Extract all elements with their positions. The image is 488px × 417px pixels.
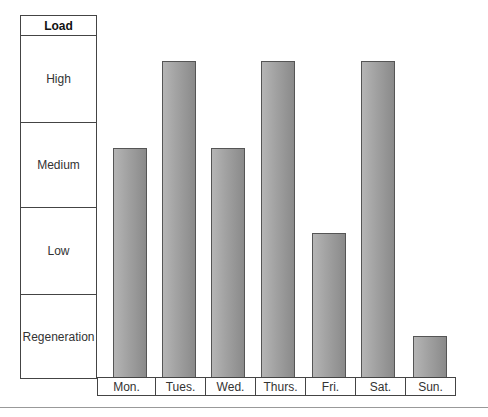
bar-chart-area xyxy=(97,0,488,395)
bar-thurs xyxy=(261,61,295,378)
bar-tues xyxy=(162,61,196,378)
bar-sat xyxy=(361,61,395,378)
level-medium: Medium xyxy=(21,122,96,207)
day-label-wed: Wed. xyxy=(205,378,255,395)
bar-mon xyxy=(113,148,147,378)
day-label-tue: Tues. xyxy=(155,378,205,395)
day-axis: Mon. Tues. Wed. Thurs. Fri. Sat. Sun. xyxy=(97,377,456,396)
level-regeneration: Regeneration xyxy=(21,294,96,378)
day-label-thu: Thurs. xyxy=(255,378,305,395)
day-label-fri: Fri. xyxy=(305,378,355,395)
caption-divider xyxy=(0,407,488,408)
day-label-sat: Sat. xyxy=(355,378,405,395)
bar-sun xyxy=(413,336,447,378)
day-label-sun: Sun. xyxy=(405,378,455,395)
day-label-mon: Mon. xyxy=(98,378,155,395)
load-header: Load xyxy=(21,16,96,35)
bar-wed xyxy=(211,148,245,378)
level-low: Low xyxy=(21,207,96,294)
bar-fri xyxy=(312,233,346,378)
load-level-table: Load High Medium Low Regeneration xyxy=(20,15,97,379)
level-high: High xyxy=(21,35,96,122)
